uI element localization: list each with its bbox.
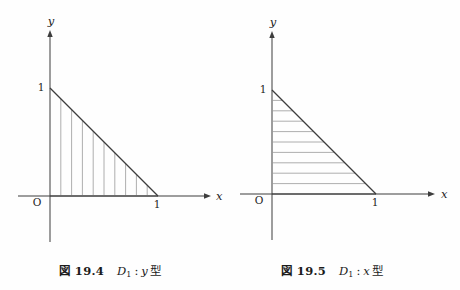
x-axis-label: x [216,189,223,203]
x-axis-arrowhead [204,193,211,198]
origin-label: O [255,194,264,206]
figure-number-label: 図 19.5 [281,264,326,278]
caption-variable: y [141,264,148,278]
figure-caption-19-4: 図 19.4D1:y型 [59,262,161,279]
y-tick-label: 1 [260,83,267,95]
figures-canvas: yxO11yxO11 [0,0,460,290]
caption-separator: : [356,264,360,278]
figure-number-label: 図 19.4 [59,264,104,278]
y-axis-label: y [47,14,55,28]
y-axis-arrowhead [47,30,52,37]
y-axis-arrowhead [269,31,274,38]
region-subscript: 1 [348,270,353,279]
x-tick-label: 1 [154,198,161,210]
caption-separator: : [134,264,138,278]
y-tick-label: 1 [38,81,45,93]
y-axis-label: y [269,15,277,29]
x-axis-label: x [441,187,448,201]
region-symbol: D [117,264,126,278]
caption-type-suffix: 型 [372,264,383,278]
caption-variable: x [363,264,370,278]
caption-type-suffix: 型 [150,264,161,278]
figure-caption-19-5: 図 19.5D1:x型 [281,262,383,279]
region-symbol: D [339,264,348,278]
x-tick-label: 1 [372,196,379,208]
figure-caption-math: D1:x型 [339,264,383,278]
x-axis-arrowhead [428,191,435,196]
figure-caption-math: D1:y型 [117,264,161,278]
origin-label: O [33,196,42,208]
region-subscript: 1 [126,270,131,279]
